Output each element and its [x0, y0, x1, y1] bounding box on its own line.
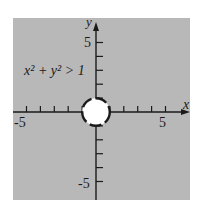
x-tick-label-neg5: -5 [14, 116, 26, 130]
y-tick-label-5: 5 [84, 36, 91, 50]
x-tick-label-5: 5 [159, 116, 166, 130]
x-axis-label: x [183, 98, 189, 112]
inequality-label: x² + y² > 1 [24, 64, 85, 78]
y-tick-label-neg5: -5 [78, 177, 90, 191]
y-axis-label: y [86, 15, 92, 28]
inequality-graph [0, 0, 198, 212]
